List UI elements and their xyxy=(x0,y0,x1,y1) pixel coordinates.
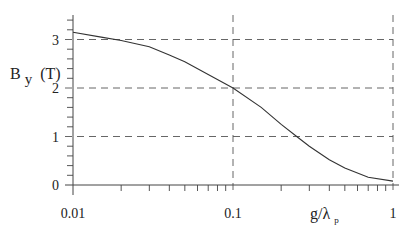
y-axis-title-main: B xyxy=(10,65,21,82)
y-axis-title-unit: (T) xyxy=(40,65,60,83)
axes xyxy=(65,15,399,195)
y-tick-label: 1 xyxy=(52,130,59,145)
x-axis-title-sub: p xyxy=(334,215,339,225)
x-tick-label: 1 xyxy=(390,206,397,221)
x-tick-label: 0.01 xyxy=(61,206,86,221)
y-tick-label: 2 xyxy=(52,81,59,96)
y-tick-label: 0 xyxy=(52,178,59,193)
x-tick-label: 0.1 xyxy=(224,206,242,221)
y-axis-title-sub: y xyxy=(25,71,33,87)
x-axis-title: g/λ p xyxy=(310,205,339,225)
chart-area: 01230.010.11 B y (T) g/λ p xyxy=(0,0,408,237)
tick-labels: 01230.010.11 xyxy=(52,33,397,222)
x-axis-title-main: g/λ xyxy=(310,205,330,223)
tick-marks xyxy=(67,20,386,191)
y-tick-label: 3 xyxy=(52,33,59,48)
